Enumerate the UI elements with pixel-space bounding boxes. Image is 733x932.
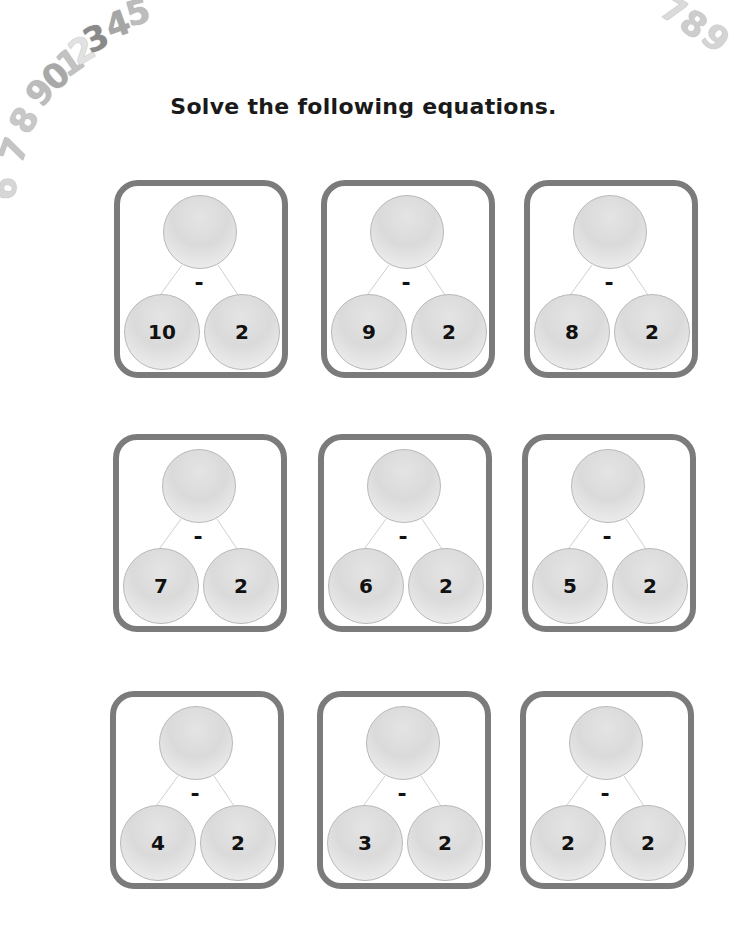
minuend-circle: 10 bbox=[124, 294, 200, 370]
number-bond-box: - 4 2 bbox=[110, 691, 284, 889]
number-bond-box: - 9 2 bbox=[321, 180, 495, 378]
minuend-circle: 3 bbox=[327, 805, 403, 881]
minuend-circle: 4 bbox=[120, 805, 196, 881]
minuend-circle: 2 bbox=[530, 805, 606, 881]
minus-operator: - bbox=[602, 270, 616, 295]
subtrahend-circle: 2 bbox=[408, 548, 484, 624]
subtrahend-circle: 2 bbox=[612, 548, 688, 624]
answer-circle[interactable] bbox=[366, 706, 440, 780]
subtrahend-circle: 2 bbox=[407, 805, 483, 881]
minus-operator: - bbox=[600, 524, 614, 549]
subtrahend-circle: 2 bbox=[200, 805, 276, 881]
minuend-circle: 8 bbox=[534, 294, 610, 370]
answer-circle[interactable] bbox=[367, 449, 441, 523]
decorative-number-arc-right: 7 8 9 bbox=[600, 0, 727, 80]
number-bond-box: - 3 2 bbox=[317, 691, 491, 889]
minuend-circle: 9 bbox=[331, 294, 407, 370]
subtrahend-circle: 2 bbox=[610, 805, 686, 881]
minuend-circle: 7 bbox=[123, 548, 199, 624]
minuend-circle: 6 bbox=[328, 548, 404, 624]
number-bond-box: - 8 2 bbox=[524, 180, 698, 378]
deco-digit: 6 bbox=[0, 173, 26, 203]
number-bond-box: - 7 2 bbox=[113, 434, 287, 632]
subtrahend-circle: 2 bbox=[204, 294, 280, 370]
minus-operator: - bbox=[396, 524, 410, 549]
page-title: Solve the following equations. bbox=[0, 94, 727, 119]
minus-operator: - bbox=[399, 270, 413, 295]
subtrahend-circle: 2 bbox=[203, 548, 279, 624]
answer-circle[interactable] bbox=[573, 195, 647, 269]
answer-circle[interactable] bbox=[162, 449, 236, 523]
number-bond-box: - 2 2 bbox=[520, 691, 694, 889]
subtrahend-circle: 2 bbox=[411, 294, 487, 370]
minus-operator: - bbox=[395, 781, 409, 806]
number-bond-box: - 5 2 bbox=[522, 434, 696, 632]
number-bond-box: - 6 2 bbox=[318, 434, 492, 632]
minus-operator: - bbox=[191, 524, 205, 549]
minus-operator: - bbox=[188, 781, 202, 806]
answer-circle[interactable] bbox=[569, 706, 643, 780]
answer-circle[interactable] bbox=[159, 706, 233, 780]
subtrahend-circle: 2 bbox=[614, 294, 690, 370]
number-bond-box: - 10 2 bbox=[114, 180, 288, 378]
minuend-circle: 5 bbox=[532, 548, 608, 624]
answer-circle[interactable] bbox=[163, 195, 237, 269]
answer-circle[interactable] bbox=[571, 449, 645, 523]
minus-operator: - bbox=[598, 781, 612, 806]
answer-circle[interactable] bbox=[370, 195, 444, 269]
minus-operator: - bbox=[192, 270, 206, 295]
